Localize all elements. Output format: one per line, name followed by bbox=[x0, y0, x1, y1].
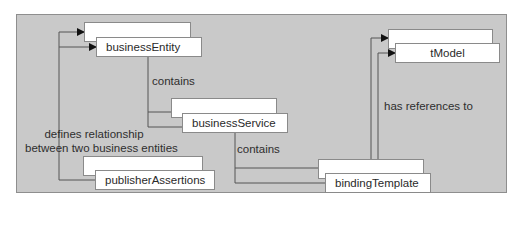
business-service-box[interactable]: businessService bbox=[182, 113, 288, 133]
has-references-label: has references to bbox=[384, 99, 473, 113]
binding-template-box[interactable]: bindingTemplate bbox=[325, 173, 431, 193]
business-entity-label: businessEntity bbox=[97, 38, 201, 56]
defines-relationship-line2: between two business entities bbox=[25, 141, 163, 155]
contains-connector-service-binding bbox=[235, 133, 325, 183]
binding-template-label: bindingTemplate bbox=[326, 174, 430, 192]
publisher-assertions-box[interactable]: publisherAssertions bbox=[95, 170, 215, 190]
defines-relationship-line1: defines relationship bbox=[25, 127, 163, 141]
business-entity-box[interactable]: businessEntity bbox=[96, 37, 202, 57]
publisher-assertions-label: publisherAssertions bbox=[96, 171, 214, 189]
contains-label-entity-service: contains bbox=[152, 74, 195, 88]
business-service-label: businessService bbox=[183, 114, 287, 132]
tmodel-box[interactable]: tModel bbox=[395, 43, 500, 63]
defines-relationship-label: defines relationship between two busines… bbox=[25, 127, 163, 155]
tmodel-label: tModel bbox=[396, 44, 499, 62]
contains-label-service-binding: contains bbox=[237, 142, 280, 156]
